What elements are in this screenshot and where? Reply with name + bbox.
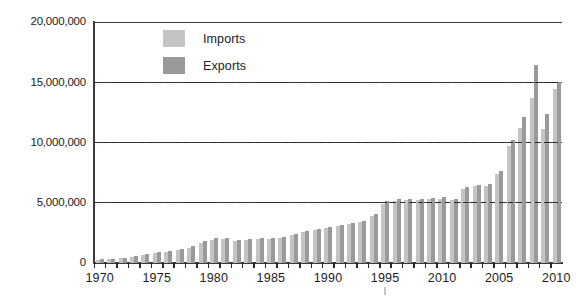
y-tick-label: 10,000,000	[0, 136, 86, 148]
legend-swatch-imports-icon	[163, 30, 185, 47]
y-tick-label: 0	[0, 256, 86, 268]
x-tick-slot	[345, 263, 356, 269]
x-tick-slot	[185, 263, 196, 269]
x-tick-mark	[208, 263, 210, 268]
x-tick-mark	[253, 263, 255, 268]
x-tick-mark	[196, 263, 198, 268]
x-tick-slot	[437, 263, 448, 269]
x-tick-slot	[163, 263, 174, 269]
bar-exports	[465, 187, 469, 263]
x-tick-mark	[470, 263, 472, 268]
x-tick-slot	[288, 263, 299, 269]
year-group	[551, 22, 562, 263]
y-axis-labels: 20,000,000 15,000,000 10,000,000 5,000,0…	[0, 0, 88, 302]
x-tick-slot	[140, 263, 151, 269]
bar-exports	[180, 249, 184, 263]
year-group	[448, 22, 459, 263]
x-tick-slot	[494, 263, 505, 269]
year-group	[288, 22, 299, 263]
x-tick-mark	[128, 263, 130, 268]
bar-exports	[305, 231, 309, 263]
x-tick-slot	[208, 263, 219, 269]
x-tick-slot	[94, 263, 105, 269]
x-tick-slot	[334, 263, 345, 269]
legend-item-exports: Exports	[163, 55, 246, 76]
x-tick-mark	[333, 263, 335, 268]
bar-exports	[168, 251, 172, 263]
year-group	[311, 22, 322, 263]
x-tick-slot	[220, 263, 231, 269]
x-tick-slot	[391, 263, 402, 269]
x-tick-slot	[505, 263, 516, 269]
x-tick-slot	[551, 263, 562, 269]
x-tick-mark	[539, 263, 541, 268]
bar-exports	[145, 254, 149, 263]
y-tick-label: 5,000,000	[0, 196, 86, 208]
year-group	[151, 22, 162, 263]
x-tick-mark	[345, 263, 347, 268]
x-tick-mark	[379, 263, 381, 268]
x-tick-slot	[448, 263, 459, 269]
x-tick-slot	[128, 263, 139, 269]
legend: Imports Exports	[163, 28, 246, 82]
legend-item-imports: Imports	[163, 28, 246, 49]
bar-exports	[317, 229, 321, 263]
x-tick-mark	[482, 263, 484, 268]
x-tick-label: 1995	[371, 271, 400, 285]
x-tick-mark	[550, 263, 552, 268]
x-tick-mark	[162, 263, 164, 268]
x-tick-mark	[493, 263, 495, 268]
bar-exports	[420, 199, 424, 263]
x-tick-mark	[528, 263, 530, 268]
year-group	[254, 22, 265, 263]
bar-exports	[374, 214, 378, 263]
year-group	[539, 22, 550, 263]
bar-exports	[271, 238, 275, 263]
year-group	[105, 22, 116, 263]
year-group	[117, 22, 128, 263]
year-group	[414, 22, 425, 263]
bar-exports	[191, 246, 195, 263]
bar-exports	[340, 225, 344, 263]
x-tick-slot	[277, 263, 288, 269]
x-tick-mark	[94, 263, 96, 268]
bar-exports	[477, 185, 481, 263]
x-tick-mark	[448, 263, 450, 268]
x-tick-mark	[299, 263, 301, 268]
bar-exports	[203, 241, 207, 263]
x-tick-label: 1985	[257, 271, 286, 285]
bar-exports	[499, 171, 503, 263]
x-tick-mark	[505, 263, 507, 268]
x-tick-mark	[173, 263, 175, 268]
x-tick-mark	[219, 263, 221, 268]
x-tick-mark	[322, 263, 324, 268]
bar-exports	[397, 199, 401, 263]
bar-exports	[545, 114, 549, 263]
year-group	[528, 22, 539, 263]
bar-exports	[522, 117, 526, 263]
x-tick-slot	[482, 263, 493, 269]
x-tick-mark	[390, 263, 392, 268]
year-group	[402, 22, 413, 263]
year-group	[368, 22, 379, 263]
x-tick-slot	[460, 263, 471, 269]
x-tick-slot	[322, 263, 333, 269]
year-group	[437, 22, 448, 263]
year-group	[482, 22, 493, 263]
x-tick-slot	[539, 263, 550, 269]
x-tick-slot	[311, 263, 322, 269]
bar-exports	[157, 252, 161, 263]
year-group	[471, 22, 482, 263]
x-label-stem-mark	[385, 287, 386, 295]
x-tick-slot	[528, 263, 539, 269]
x-tick-slot	[300, 263, 311, 269]
x-tick-slot	[517, 263, 528, 269]
x-tick-slot	[254, 263, 265, 269]
year-group	[517, 22, 528, 263]
year-group	[391, 22, 402, 263]
year-group	[357, 22, 368, 263]
x-tick-slot	[357, 263, 368, 269]
x-tick-slot	[174, 263, 185, 269]
x-tick-label: 2005	[485, 271, 514, 285]
x-tick-mark	[288, 263, 290, 268]
